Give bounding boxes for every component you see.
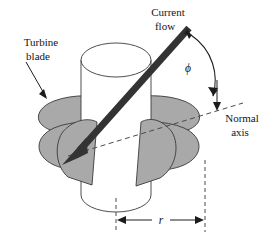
blade-vane-right — [136, 119, 176, 186]
cylinder-top-ellipse — [81, 43, 151, 77]
turbine-diagram: ϕ r Turbine blade Current flow Normal ax… — [0, 0, 274, 240]
current-flow-label-line2: flow — [155, 20, 175, 32]
normal-axis-label-line2: axis — [231, 126, 249, 138]
turbine-blade-label-line1: Turbine — [24, 36, 59, 48]
angle-phi-label: ϕ — [185, 62, 191, 75]
normal-axis-leader — [213, 80, 221, 111]
turbine-blade-leader — [26, 62, 47, 99]
current-flow-label-line1: Current — [151, 6, 185, 18]
radius-label: r — [159, 214, 164, 226]
turbine-diagram-svg: ϕ r Turbine blade Current flow Normal ax… — [0, 0, 274, 240]
normal-axis-label-line1: Normal — [225, 112, 259, 124]
turbine-blade-label-line2: blade — [26, 50, 50, 62]
